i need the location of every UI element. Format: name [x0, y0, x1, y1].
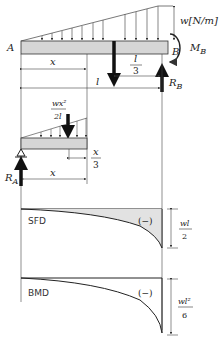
beam [21, 41, 168, 54]
moment-label: MB [189, 42, 206, 56]
section-distributed-load [21, 118, 87, 138]
section-beam [21, 138, 87, 149]
pin-support-icon [17, 149, 25, 156]
dim-x3-den: 3 [93, 160, 99, 170]
bending-moment-diagram [21, 278, 162, 333]
bmd-max-den: 6 [182, 311, 187, 320]
dim-l3-num: l [134, 53, 137, 64]
sfd-max-den: 2 [182, 232, 187, 241]
distributed-load [21, 6, 174, 41]
dim-x3-num: x [93, 146, 99, 157]
dim-l-label: l [96, 76, 99, 87]
sfd-title: SFD [28, 216, 46, 226]
section-resultant-den: 2l [53, 112, 62, 121]
bmd-sign: (−) [138, 288, 153, 298]
dim-l3-den: 3 [133, 66, 139, 76]
bmd-title: BMD [28, 288, 49, 298]
section-resultant-num: wx² [52, 99, 67, 108]
dim-x-label: x [50, 56, 56, 67]
bmd-max-num: wl² [178, 297, 191, 306]
point-a-label: A [6, 42, 14, 53]
sfd-max-num: wl [180, 219, 190, 228]
reaction-a-label: RA [4, 172, 19, 186]
load-label: w[N/m] [180, 15, 218, 26]
section-dim-x-label: x [50, 167, 56, 178]
reaction-b-label: RB [168, 77, 183, 91]
sfd-sign: (−) [138, 216, 153, 226]
shear-force-diagram [21, 209, 162, 248]
cantilever-beam-diagram: w[N/m] A B MB RB x l 3 l wx² 2l [0, 0, 219, 342]
